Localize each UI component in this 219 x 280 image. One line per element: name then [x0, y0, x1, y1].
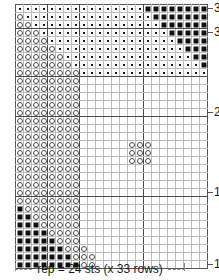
cell-empty[interactable]: [176, 245, 184, 253]
cell-empty[interactable]: [88, 149, 96, 157]
cell-circle[interactable]: [40, 69, 48, 77]
cell-square[interactable]: [24, 237, 32, 245]
cell-empty[interactable]: [120, 221, 128, 229]
cell-dot[interactable]: [80, 53, 88, 61]
cell-square[interactable]: [16, 213, 24, 221]
cell-empty[interactable]: [184, 197, 192, 205]
cell-circle[interactable]: [40, 165, 48, 173]
cell-square[interactable]: [40, 229, 48, 237]
cell-circle[interactable]: [136, 141, 144, 149]
cell-dot[interactable]: [88, 21, 96, 29]
cell-empty[interactable]: [120, 93, 128, 101]
cell-circle[interactable]: [64, 237, 72, 245]
cell-circle[interactable]: [48, 53, 56, 61]
cell-dot[interactable]: [96, 5, 104, 13]
cell-dot[interactable]: [88, 53, 96, 61]
cell-empty[interactable]: [112, 221, 120, 229]
cell-empty[interactable]: [80, 165, 88, 173]
cell-circle[interactable]: [48, 221, 56, 229]
cell-circle[interactable]: [16, 21, 24, 29]
cell-empty[interactable]: [152, 157, 160, 165]
cell-empty[interactable]: [112, 229, 120, 237]
cell-dot[interactable]: [72, 29, 80, 37]
cell-circle[interactable]: [64, 245, 72, 253]
cell-empty[interactable]: [112, 101, 120, 109]
cell-circle[interactable]: [48, 77, 56, 85]
cell-circle[interactable]: [40, 77, 48, 85]
cell-circle[interactable]: [16, 181, 24, 189]
cell-empty[interactable]: [96, 93, 104, 101]
cell-dot[interactable]: [152, 61, 160, 69]
cell-circle[interactable]: [48, 189, 56, 197]
cell-empty[interactable]: [120, 189, 128, 197]
cell-dot[interactable]: [184, 53, 192, 61]
cell-empty[interactable]: [96, 245, 104, 253]
cell-empty[interactable]: [176, 197, 184, 205]
cell-empty[interactable]: [144, 165, 152, 173]
cell-circle[interactable]: [16, 61, 24, 69]
cell-empty[interactable]: [200, 237, 208, 245]
cell-dot[interactable]: [56, 5, 64, 13]
cell-dot[interactable]: [160, 61, 168, 69]
cell-circle[interactable]: [64, 125, 72, 133]
cell-square[interactable]: [32, 221, 40, 229]
cell-circle[interactable]: [72, 213, 80, 221]
cell-empty[interactable]: [152, 101, 160, 109]
cell-empty[interactable]: [184, 117, 192, 125]
cell-empty[interactable]: [184, 93, 192, 101]
cell-dot[interactable]: [24, 5, 32, 13]
cell-empty[interactable]: [96, 237, 104, 245]
cell-circle[interactable]: [56, 237, 64, 245]
cell-dot[interactable]: [24, 13, 32, 21]
cell-empty[interactable]: [120, 229, 128, 237]
cell-empty[interactable]: [104, 117, 112, 125]
cell-circle[interactable]: [40, 133, 48, 141]
cell-empty[interactable]: [112, 141, 120, 149]
cell-empty[interactable]: [128, 213, 136, 221]
cell-circle[interactable]: [72, 93, 80, 101]
cell-square[interactable]: [176, 21, 184, 29]
cell-empty[interactable]: [88, 197, 96, 205]
cell-circle[interactable]: [48, 93, 56, 101]
cell-dot[interactable]: [128, 29, 136, 37]
cell-circle[interactable]: [32, 149, 40, 157]
cell-empty[interactable]: [168, 77, 176, 85]
cell-empty[interactable]: [80, 189, 88, 197]
cell-empty[interactable]: [200, 109, 208, 117]
cell-dot[interactable]: [112, 13, 120, 21]
cell-dot[interactable]: [56, 21, 64, 29]
cell-circle[interactable]: [16, 157, 24, 165]
cell-dot[interactable]: [96, 21, 104, 29]
cell-dot[interactable]: [128, 5, 136, 13]
cell-empty[interactable]: [104, 77, 112, 85]
cell-empty[interactable]: [160, 149, 168, 157]
cell-circle[interactable]: [72, 117, 80, 125]
cell-dot[interactable]: [120, 21, 128, 29]
cell-empty[interactable]: [184, 229, 192, 237]
cell-circle[interactable]: [64, 149, 72, 157]
cell-dot[interactable]: [160, 29, 168, 37]
cell-square[interactable]: [168, 5, 176, 13]
cell-dot[interactable]: [128, 69, 136, 77]
cell-dot[interactable]: [96, 13, 104, 21]
cell-empty[interactable]: [160, 197, 168, 205]
cell-circle[interactable]: [32, 37, 40, 45]
cell-dot[interactable]: [112, 29, 120, 37]
cell-dot[interactable]: [112, 69, 120, 77]
cell-circle[interactable]: [72, 205, 80, 213]
cell-empty[interactable]: [88, 245, 96, 253]
cell-dot[interactable]: [40, 29, 48, 37]
cell-circle[interactable]: [24, 109, 32, 117]
cell-empty[interactable]: [192, 221, 200, 229]
cell-dot[interactable]: [168, 61, 176, 69]
cell-circle[interactable]: [48, 125, 56, 133]
cell-square[interactable]: [192, 45, 200, 53]
cell-dot[interactable]: [112, 21, 120, 29]
cell-empty[interactable]: [184, 213, 192, 221]
cell-dot[interactable]: [80, 21, 88, 29]
cell-empty[interactable]: [176, 77, 184, 85]
cell-empty[interactable]: [96, 141, 104, 149]
cell-empty[interactable]: [136, 205, 144, 213]
cell-dot[interactable]: [104, 5, 112, 13]
cell-empty[interactable]: [160, 213, 168, 221]
